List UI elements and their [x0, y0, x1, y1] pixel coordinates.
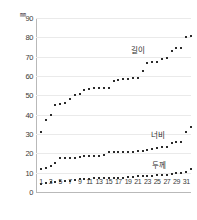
gridline-horizontal — [36, 37, 191, 38]
series-label-두께: 두께 — [152, 159, 165, 170]
data-point — [137, 150, 139, 152]
data-point — [175, 172, 177, 174]
data-point — [171, 50, 173, 52]
y-axis-tick-label: 50 — [25, 91, 33, 100]
data-point — [146, 62, 148, 64]
data-point — [69, 98, 71, 100]
data-point — [142, 150, 144, 152]
y-axis-tick-label: 90 — [25, 14, 33, 23]
data-point — [185, 131, 187, 133]
data-point — [45, 182, 47, 184]
data-point — [180, 141, 182, 143]
data-point — [185, 171, 187, 173]
data-point — [59, 157, 61, 159]
x-axis-tick-label: 1 — [39, 178, 42, 185]
y-axis-tick-label: 10 — [25, 168, 33, 177]
y-axis-tick-label: 30 — [25, 130, 33, 139]
data-point — [180, 172, 182, 174]
y-axis-tick-label: 70 — [25, 52, 33, 61]
gridline-horizontal — [36, 18, 191, 19]
data-point — [166, 57, 168, 59]
y-axis-tick-label: 80 — [25, 33, 33, 42]
x-axis-tick-label: 29 — [173, 178, 180, 185]
data-point — [132, 77, 134, 79]
data-point — [117, 151, 119, 153]
data-point — [64, 180, 66, 182]
data-point — [103, 87, 105, 89]
data-point — [59, 103, 61, 105]
data-point — [74, 179, 76, 181]
y-axis-tick-label: 20 — [25, 149, 33, 158]
data-point — [127, 151, 129, 153]
x-axis-tick-label: 7 — [68, 178, 71, 185]
data-point — [83, 89, 85, 91]
x-axis-tick-label: 13 — [96, 178, 103, 185]
x-axis-tick-label: 3 — [49, 178, 52, 185]
data-point — [103, 154, 105, 156]
data-point — [79, 156, 81, 158]
data-point — [190, 35, 192, 37]
data-point — [122, 151, 124, 153]
data-point — [161, 146, 163, 148]
data-point — [175, 141, 177, 143]
gridline-horizontal — [36, 153, 191, 154]
data-point — [171, 142, 173, 144]
data-point — [142, 175, 144, 177]
data-point — [54, 162, 56, 164]
data-point — [146, 175, 148, 177]
data-point — [156, 174, 158, 176]
data-point — [74, 94, 76, 96]
gridline-horizontal — [36, 76, 191, 77]
data-point — [161, 58, 163, 60]
y-axis-tick-label: 0 — [29, 188, 33, 197]
data-point — [83, 155, 85, 157]
data-point — [146, 149, 148, 151]
data-point — [98, 87, 100, 89]
data-point — [190, 126, 192, 128]
data-point — [166, 174, 168, 176]
data-point — [185, 36, 187, 38]
plot-area: 0102030405060708090 — [36, 18, 191, 192]
y-axis-tick-label: 40 — [25, 110, 33, 119]
x-axis-tick-label: 27 — [163, 178, 170, 185]
data-point — [156, 147, 158, 149]
data-point — [122, 78, 124, 80]
data-point — [54, 104, 56, 106]
data-point — [190, 168, 192, 170]
data-point — [54, 181, 56, 183]
data-point — [161, 174, 163, 176]
data-point — [108, 151, 110, 153]
data-point — [93, 155, 95, 157]
data-point — [132, 151, 134, 153]
data-point — [74, 157, 76, 159]
data-point — [69, 157, 71, 159]
x-axis-tick-label: 21 — [134, 178, 141, 185]
data-point — [93, 87, 95, 89]
x-axis-tick-label: 15 — [105, 178, 112, 185]
data-point — [175, 47, 177, 49]
data-point — [40, 168, 42, 170]
data-point — [117, 79, 119, 81]
data-point — [50, 114, 52, 116]
gridline-horizontal — [36, 115, 191, 116]
data-point — [88, 88, 90, 90]
data-point — [151, 148, 153, 150]
data-point — [156, 61, 158, 63]
x-axis-tick-label: 11 — [86, 178, 92, 185]
x-axis-tick-label: 17 — [115, 178, 122, 185]
data-point — [50, 165, 52, 167]
data-point — [142, 70, 144, 72]
data-point — [137, 175, 139, 177]
series-label-너비: 너비 — [151, 129, 164, 140]
data-point — [40, 131, 42, 133]
data-point — [88, 155, 90, 157]
gridline-horizontal — [36, 95, 191, 96]
data-point — [45, 119, 47, 121]
series-label-길이: 길이 — [131, 44, 144, 55]
data-point — [171, 173, 173, 175]
data-point — [151, 61, 153, 63]
data-point — [127, 78, 129, 80]
gridline-horizontal — [36, 134, 191, 135]
x-axis-tick-label: 5 — [59, 178, 62, 185]
x-axis-tick-label: 31 — [183, 178, 190, 185]
